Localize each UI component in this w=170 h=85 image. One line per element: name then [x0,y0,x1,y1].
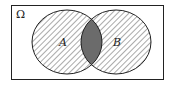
set-b-label: B [112,36,121,49]
set-a-label: A [58,36,67,49]
universe-label: Ω [16,8,25,21]
venn-diagram: Ω A B [0,0,170,85]
